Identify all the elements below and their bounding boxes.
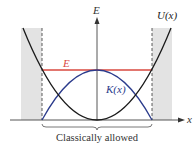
allowed-region-brace (42, 124, 152, 130)
kinetic-label: K(x) (105, 83, 126, 96)
energy-diagram: E x U(x) E K(x) Classically allowed (0, 0, 195, 147)
potential-label: U(x) (157, 9, 177, 22)
region-caption: Classically allowed (56, 132, 139, 143)
energy-level-label: E (62, 57, 70, 69)
forbidden-region-left (21, 28, 42, 120)
x-axis-arrow-icon (178, 118, 185, 123)
position-axis-label: x (186, 113, 192, 125)
energy-axis-label: E (92, 4, 100, 16)
energy-axis-arrow-icon (95, 17, 100, 24)
forbidden-region-right (152, 28, 172, 120)
